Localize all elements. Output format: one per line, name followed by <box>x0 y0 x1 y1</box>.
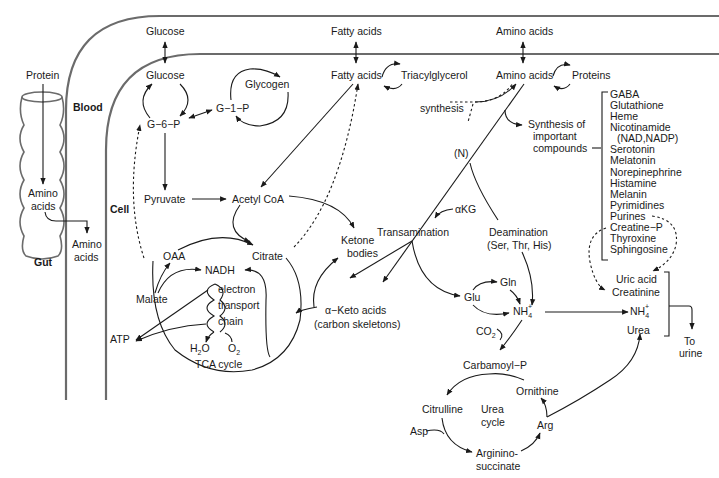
gut-amino-acids-2: acids <box>31 200 56 212</box>
oaa: OAA <box>163 250 185 262</box>
uric-acid: Uric acid <box>616 273 657 285</box>
ketone-bodies-1: Ketone <box>341 234 374 246</box>
cell-glucose: Glucose <box>146 69 185 81</box>
nh4-cell: NH4+ <box>513 303 532 319</box>
g1p: G−1−P <box>216 102 249 114</box>
deamination-sub: (Ser, Thr, His) <box>487 239 552 251</box>
argininosuccinate-2: succinate <box>476 460 521 472</box>
synthesis-important-3: compounds <box>533 142 587 154</box>
glu: Glu <box>464 291 481 303</box>
excretion: Uric acid Creatinine NH4+ Urea To urine <box>612 272 703 359</box>
synthesis-important-1: Synthesis of <box>528 118 585 130</box>
ornithine: Ornithine <box>516 385 559 397</box>
acetyl-coa: Acetyl CoA <box>232 193 284 205</box>
triacylglycerol: Triacylglycerol <box>401 69 468 81</box>
co2: CO2 <box>476 325 496 339</box>
tca-cycle-label: TCA cycle <box>195 358 242 370</box>
blood-amino-acids: Amino acids <box>496 25 553 37</box>
atp: ATP <box>110 333 130 345</box>
pyruvate: Pyruvate <box>144 193 186 205</box>
compound-item: Melatonin <box>610 154 656 166</box>
g6p: G−6−P <box>147 118 180 130</box>
synthesis-important-2: important <box>533 130 577 142</box>
blood-amino-acids-2: acids <box>74 251 99 263</box>
blood-label: Blood <box>73 101 103 113</box>
arg: Arg <box>537 419 554 431</box>
creatinine: Creatinine <box>612 286 660 298</box>
etc-transport: transport <box>218 299 260 311</box>
citrulline: Citrulline <box>422 403 463 415</box>
synthesis-label: synthesis <box>420 102 464 114</box>
akg: αKG <box>455 203 476 215</box>
etc-chain: chain <box>218 315 243 327</box>
to-urine-2: urine <box>679 347 703 359</box>
compounds-list: GABA Glutathione Heme Nicotinamide (NAD,… <box>589 88 682 290</box>
o2: O2 <box>228 342 240 356</box>
transamination: Transamination <box>377 226 449 238</box>
cell-amino-acids: Amino acids <box>496 69 553 81</box>
metabolism-diagram: Blood Cell Gut Protein Amino acids Amino… <box>0 0 719 478</box>
ketone-bodies-2: bodies <box>347 247 378 259</box>
gut-amino-acids-1: Amino <box>28 187 58 199</box>
urea-cycle: Carbamoyl−P Ornithine Citrulline Urea cy… <box>410 334 640 472</box>
blood-amino-acids-1: Amino <box>72 238 102 250</box>
urea-cycle-label-1: Urea <box>481 403 504 415</box>
malate: Malate <box>136 293 168 305</box>
urea-cycle-label-2: cycle <box>481 416 505 428</box>
glycogen: Glycogen <box>245 78 290 90</box>
nh4-urine: NH4+ <box>630 303 649 319</box>
to-urine-1: To <box>684 335 695 347</box>
n-label: (N) <box>454 147 469 159</box>
carbamoyl-p: Carbamoyl−P <box>463 359 527 371</box>
asp: Asp <box>410 425 428 437</box>
protein-label: Protein <box>26 69 59 81</box>
cell-label: Cell <box>110 203 129 215</box>
gln: Gln <box>500 276 517 288</box>
deamination: Deamination <box>489 226 548 238</box>
tca-cycle: OAA Citrate NADH Malate electron transpo… <box>136 205 301 372</box>
cell-fatty-acids: Fatty acids <box>331 69 382 81</box>
blood-glucose: Glucose <box>146 25 185 37</box>
etc-electron: electron <box>218 283 256 295</box>
proteins: Proteins <box>572 69 611 81</box>
keto-acids-2: (carbon skeletons) <box>314 318 400 330</box>
gut-tube <box>20 92 64 259</box>
blood-fatty-acids: Fatty acids <box>331 25 382 37</box>
compound-item: Sphingosine <box>610 243 668 255</box>
keto-acids-1: α−Keto acids <box>325 304 386 316</box>
h2o: H2O <box>190 342 210 356</box>
citrate: Citrate <box>252 250 283 262</box>
argininosuccinate-1: Arginino- <box>476 447 519 459</box>
nadh: NADH <box>205 264 235 276</box>
urea: Urea <box>627 324 650 336</box>
gut-label: Gut <box>34 256 53 268</box>
